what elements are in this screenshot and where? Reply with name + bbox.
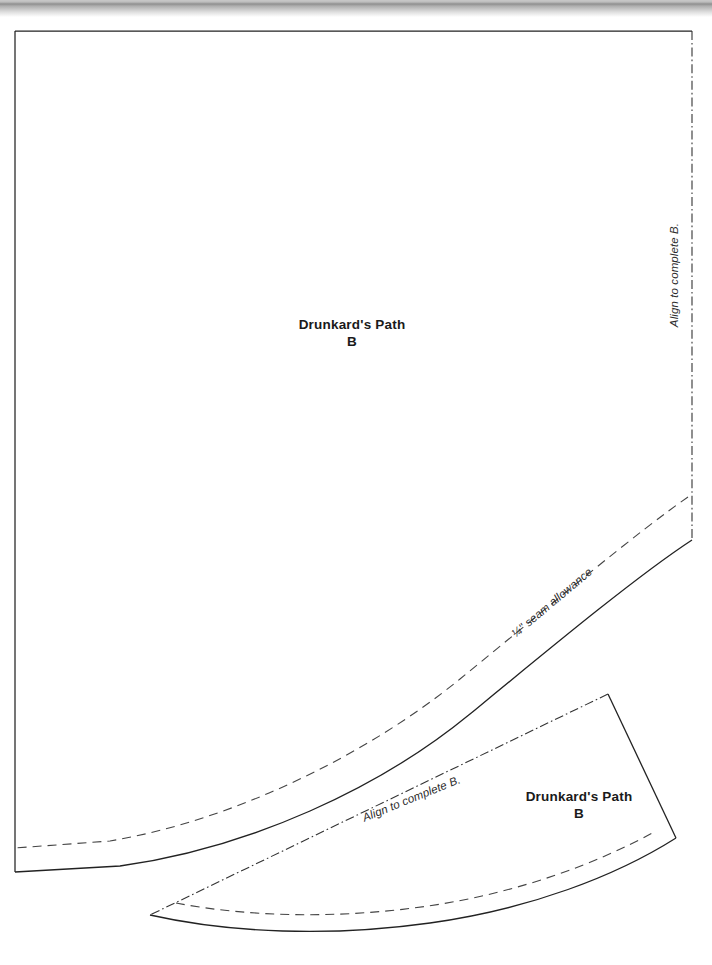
small-piece-seam-arc (176, 832, 654, 915)
small-piece-cut-arc (150, 838, 676, 931)
pattern-sheet-page: Drunkard's Path B Drunkard's Path B Alig… (0, 0, 712, 965)
large-piece-label-line2: B (246, 333, 458, 350)
small-piece-label-line1: Drunkard's Path (484, 788, 674, 805)
large-piece-cut-curve (15, 540, 692, 872)
large-piece-label: Drunkard's Path B (246, 316, 458, 350)
small-piece-label-line2: B (484, 805, 674, 822)
large-piece-label-line1: Drunkard's Path (246, 316, 458, 333)
small-piece-label: Drunkard's Path B (484, 788, 674, 822)
align-to-complete-b-right-annotation: Align to complete B. (668, 205, 680, 345)
